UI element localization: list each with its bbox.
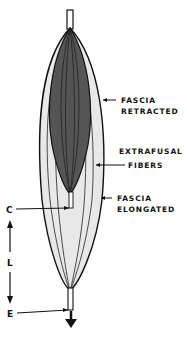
svg-text:RETRACTED: RETRACTED: [121, 107, 179, 116]
svg-text:ELONGATED: ELONGATED: [117, 205, 175, 214]
pull-arrow-icon: [65, 311, 77, 328]
label-fascia-retracted: FASCIA RETRACTED: [103, 96, 179, 116]
svg-text:FASCIA: FASCIA: [121, 96, 156, 105]
top-tendon: [67, 10, 73, 29]
svg-text:FIBERS: FIBERS: [128, 161, 163, 170]
label-fascia-elongated: FASCIA ELONGATED: [101, 194, 175, 214]
inner-tendon: [69, 192, 73, 208]
muscle-diagram: FASCIA RETRACTED EXTRAFUSAL FIBERS FASCI…: [0, 0, 187, 343]
svg-text:FASCIA: FASCIA: [117, 194, 152, 203]
bottom-tendon: [68, 288, 73, 310]
svg-text:E: E: [7, 309, 13, 319]
label-extrafusal-fibers: EXTRAFUSAL FIBERS: [96, 147, 183, 170]
length-arrow-icon: L: [7, 220, 13, 304]
label-e: E: [7, 308, 68, 319]
svg-text:EXTRAFUSAL: EXTRAFUSAL: [119, 147, 183, 156]
svg-text:L: L: [7, 258, 13, 268]
svg-text:C: C: [6, 205, 13, 215]
